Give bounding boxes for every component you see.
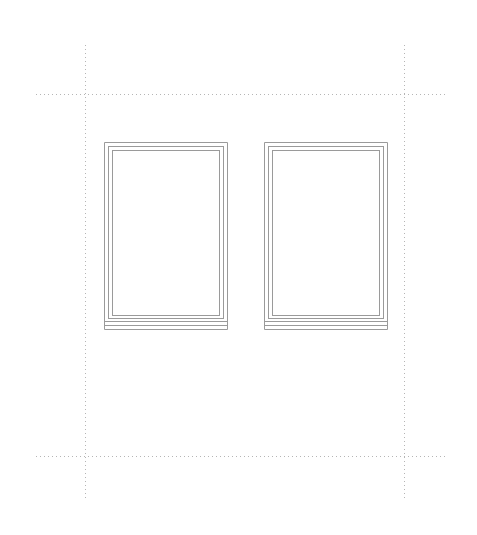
guide-lines (36, 45, 446, 500)
windows-group (105, 143, 388, 330)
glass-pane (273, 151, 380, 316)
outer-frame (265, 143, 388, 330)
middle-frame (269, 147, 384, 319)
window-right (265, 143, 388, 330)
glass-pane (113, 151, 220, 316)
window-left (105, 143, 228, 330)
drawing-canvas (0, 0, 477, 535)
middle-frame (109, 147, 224, 319)
outer-frame (105, 143, 228, 330)
